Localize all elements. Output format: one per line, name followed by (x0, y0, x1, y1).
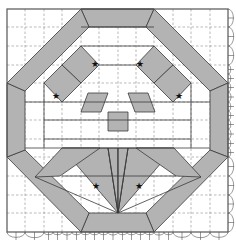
left-slanted-panel (81, 93, 108, 112)
octagon-band-segment (81, 9, 154, 27)
reference-star: ★ (175, 91, 183, 101)
crease-pattern-diagram: ★★★★★★ (0, 0, 236, 247)
reference-star: ★ (52, 91, 60, 101)
octagon-band-segment (210, 83, 228, 157)
center-square-panel (108, 112, 128, 131)
octagon-band-segment (7, 83, 25, 157)
reference-star: ★ (136, 59, 144, 69)
reference-star: ★ (92, 181, 100, 191)
shaded-regions (7, 9, 228, 232)
reference-star: ★ (91, 59, 99, 69)
octagon-band-segment (81, 213, 154, 232)
reference-star: ★ (135, 181, 143, 191)
right-slanted-panel (128, 93, 155, 112)
